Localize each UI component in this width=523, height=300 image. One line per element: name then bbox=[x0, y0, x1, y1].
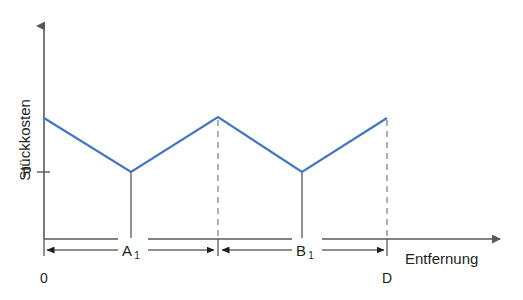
x-endpoint-label-d: D bbox=[382, 270, 392, 286]
unit-cost-distance-chart: Stückkosten P A 1 B 1 Entfe bbox=[0, 0, 523, 300]
unit-cost-line-series bbox=[44, 117, 387, 172]
segment-label-a1: A 1 bbox=[118, 238, 148, 261]
segment-label-b1-subscript: 1 bbox=[308, 250, 314, 261]
chart-figure: Stückkosten P A 1 B 1 Entfe bbox=[0, 0, 523, 300]
y-tick-label-p: P bbox=[22, 164, 31, 180]
segment-label-a1-subscript: 1 bbox=[134, 250, 140, 261]
segment-label-b1-main: B bbox=[296, 242, 306, 259]
segment-label-a1-main: A bbox=[122, 242, 132, 259]
segment-label-b1: B 1 bbox=[292, 238, 322, 261]
x-axis-title: Entfernung bbox=[405, 250, 478, 267]
x-origin-label: 0 bbox=[40, 270, 48, 286]
